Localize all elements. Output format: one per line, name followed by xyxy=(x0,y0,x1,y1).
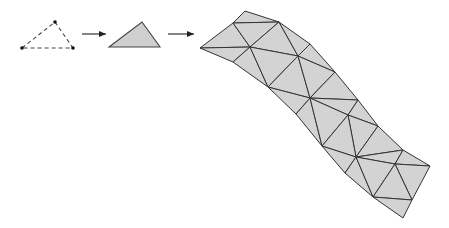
triangulated-mesh xyxy=(200,11,430,218)
filled-triangle xyxy=(109,22,160,47)
vertex-point xyxy=(71,46,75,50)
diagram-canvas xyxy=(0,0,449,228)
mesh-triangle xyxy=(373,197,412,218)
point-triangle xyxy=(20,20,75,50)
dashed-triangle-outline xyxy=(22,22,73,48)
vertex-point xyxy=(20,46,24,50)
mesh-triangle xyxy=(233,11,279,23)
vertex-point xyxy=(53,20,57,24)
